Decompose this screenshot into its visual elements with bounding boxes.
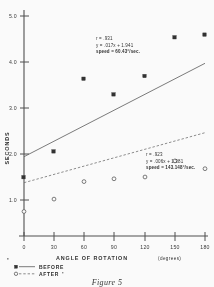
data-point [52, 150, 55, 153]
after-stats-speed: speed = 143.148°/sec. [146, 165, 195, 170]
data-point [52, 197, 56, 201]
legend-marker-before [15, 265, 18, 268]
after-stats-equation: y = .006x + 1.381 [146, 159, 184, 164]
y-tick-label-1: 1.0 [9, 197, 17, 203]
y-tick-label-4: 4.0 [9, 59, 17, 65]
data-point [82, 77, 85, 80]
after-stats-r: r = .923 [146, 152, 163, 157]
x-tick-label-150: 150 [170, 244, 180, 250]
y-axis-ticks: 5.0 4.0 3.0 2.0 1.0 [9, 13, 29, 203]
scan-speck [62, 272, 63, 273]
data-point [203, 167, 207, 171]
x-axis-ticks: 0 30 60 90 120 150 180 [22, 232, 209, 250]
x-tick-label-90: 90 [111, 244, 117, 250]
data-point [112, 177, 116, 181]
y-tick-label-5: 5.0 [9, 13, 17, 19]
data-point [112, 93, 115, 96]
data-point [143, 175, 147, 179]
x-tick-label-180: 180 [200, 244, 210, 250]
y-axis-title: SECONDS [4, 132, 10, 165]
figure-container: 5.0 4.0 3.0 2.0 1.0 SECONDS 0 30 60 90 1… [0, 0, 214, 287]
before-stats-speed: speed = 60.43°/sec. [96, 49, 140, 54]
chart-legend: BEFORE AFTER [14, 264, 64, 277]
data-point [203, 33, 206, 36]
x-tick-label-30: 30 [51, 244, 57, 250]
x-tick-label-0: 0 [22, 244, 25, 250]
data-point [173, 36, 176, 39]
scan-speck [7, 258, 9, 260]
x-axis-title: ANGLE OF ROTATION [56, 255, 128, 261]
before-stats-r: r = .931 [96, 36, 113, 41]
figure-caption: Figure 5 [91, 278, 123, 287]
before-series-points [22, 33, 206, 179]
data-point [82, 180, 86, 184]
legend-label-before: BEFORE [39, 264, 64, 270]
data-point [143, 74, 146, 77]
before-stats-equation: y = .017x + 1.941 [96, 43, 134, 48]
data-point [22, 210, 26, 214]
y-tick-label-3: 3.0 [9, 105, 17, 111]
x-axis-title-units: (degrees) [158, 256, 181, 261]
after-stats-annotation: r = .923 y = .006x + 1.381 speed = 143.1… [146, 152, 195, 170]
data-point [22, 176, 25, 179]
legend-label-after: AFTER [39, 271, 59, 277]
y-tick-label-2: 2.0 [9, 151, 17, 157]
x-tick-label-60: 60 [81, 244, 87, 250]
scatter-plot: 5.0 4.0 3.0 2.0 1.0 SECONDS 0 30 60 90 1… [0, 0, 214, 287]
before-regression-line [24, 63, 205, 156]
x-tick-label-120: 120 [140, 244, 150, 250]
legend-marker-after [14, 272, 17, 275]
before-stats-annotation: r = .931 y = .017x + 1.941 speed = 60.43… [96, 36, 140, 54]
